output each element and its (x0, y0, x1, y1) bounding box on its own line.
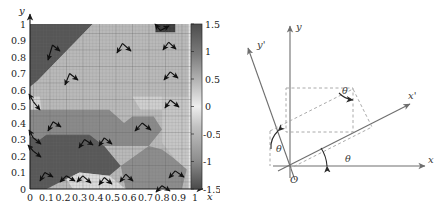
x-tick: 0.5 (105, 192, 120, 203)
coarse-grid (30, 24, 195, 189)
xprime-axis-label: x' (408, 90, 416, 101)
angle-arcs (271, 93, 353, 166)
colorbar-tick: 1 (205, 46, 211, 57)
colorbar-tick: 0.5 (205, 74, 220, 85)
x-tick: 0.3 (72, 192, 87, 203)
y-axis-label: y (295, 21, 302, 32)
x-tick: 1 (192, 192, 198, 203)
colorbar-tick: -1 (203, 156, 212, 167)
axes-group (248, 26, 425, 180)
heatmap-field (30, 24, 195, 189)
x-tick: 0.8 (154, 192, 169, 203)
x-tick-labels: 0 0.1 0.2 0.3 0.4 0.5 0.6 0.7 0.8 0.9 1 (27, 192, 198, 203)
rotated-axes-svg: x y x' y' O θ θ θ (220, 0, 440, 210)
y-tick: 1 (20, 19, 26, 30)
x-tick: 0.6 (121, 192, 136, 203)
y-tick: 0.7 (11, 68, 26, 79)
heatmap-panel: 0 0.1 0.2 0.3 0.4 0.5 0.6 0.7 0.8 0.9 1 … (0, 0, 220, 210)
y-tick: 0 (20, 184, 26, 195)
x-tick: 0.7 (138, 192, 153, 203)
origin-label: O (290, 174, 298, 185)
x-axis-label: x (428, 154, 434, 165)
colorbar-tick: 1.5 (205, 19, 220, 30)
x-tick: 0.4 (88, 192, 103, 203)
theta-label-yprime: θ (276, 143, 282, 154)
dashed-rect-rotated (270, 89, 372, 169)
x-tick: 0 (27, 192, 33, 203)
y-tick: 0.8 (11, 52, 26, 63)
y-tick: 0.2 (11, 151, 26, 162)
rotated-axes-panel: x y x' y' O θ θ θ (220, 0, 440, 210)
colorbar-tick: -0.5 (203, 129, 220, 140)
y-axis-label: y (18, 5, 25, 16)
colorbar-tick: 0 (205, 101, 211, 112)
figure-root: 0 0.1 0.2 0.3 0.4 0.5 0.6 0.7 0.8 0.9 1 … (0, 0, 440, 210)
y-tick: 0.1 (11, 167, 26, 178)
y-tick: 0.4 (11, 118, 26, 129)
y-tick: 0.9 (11, 35, 26, 46)
heatmap-svg: 0 0.1 0.2 0.3 0.4 0.5 0.6 0.7 0.8 0.9 1 … (0, 0, 220, 210)
x-tick: 0.2 (55, 192, 70, 203)
yprime-axis-label: y' (256, 39, 265, 50)
colorbar-tick-labels: 1.5 1 0.5 0 -0.5 -1 -1.5 (203, 19, 220, 195)
y-tick: 0.6 (11, 85, 26, 96)
y-tick: 0.3 (11, 134, 26, 145)
construction-lines (270, 88, 372, 169)
yprime-axis (248, 48, 295, 180)
y-tick: 0.5 (11, 101, 26, 112)
colorbar: 1.5 1 0.5 0 -0.5 -1 -1.5 (191, 19, 220, 195)
x-tick: 0.1 (39, 192, 54, 203)
xprime-axis (278, 104, 410, 171)
theta-label-upper: θ (342, 85, 348, 96)
y-tick-labels: 0 0.1 0.2 0.3 0.4 0.5 0.6 0.7 0.8 0.9 1 (11, 19, 26, 195)
colorbar-tick: -1.5 (203, 184, 220, 195)
x-tick: 0.9 (171, 192, 186, 203)
theta-label-origin: θ (345, 153, 351, 164)
